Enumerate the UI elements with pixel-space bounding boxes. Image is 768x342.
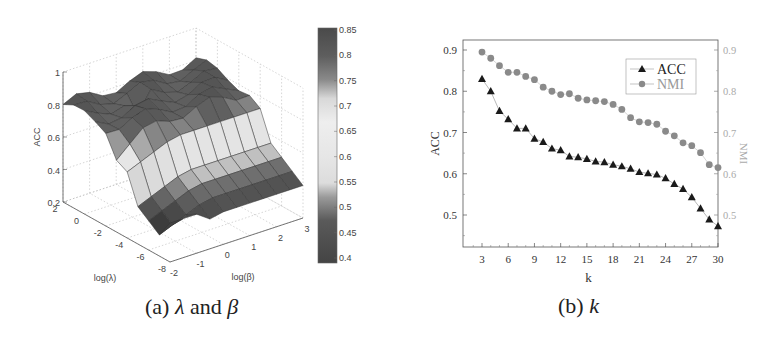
x-tick-label: 6: [505, 253, 511, 265]
caption-a-beta: β: [227, 294, 238, 319]
nmi-marker: [540, 84, 547, 91]
line-chart-canvas: 369121518212427300.90.90.80.80.70.70.60.…: [384, 0, 768, 300]
x-tick-label: 27: [686, 253, 698, 265]
lambda-tick-label: 0: [74, 216, 79, 226]
x-tick-label: 21: [634, 253, 645, 265]
nmi-marker: [514, 69, 521, 76]
surface-plot-canvas: 10.80.60.40.2ACC20-2-4-6-8log(λ)-2-10123…: [0, 0, 384, 300]
nmi-marker: [601, 98, 608, 105]
line-chart-axes: 369121518212427300.90.90.80.80.70.70.60.…: [428, 40, 750, 285]
y-tick-label-left: 0.7: [443, 127, 457, 139]
nmi-marker: [557, 91, 564, 98]
caption-b: (b) k: [558, 293, 599, 319]
colorbar-tick-label: 0.85: [339, 25, 357, 35]
z-axis-label: ACC: [32, 127, 42, 147]
lambda-tick-label: -6: [137, 252, 145, 262]
acc-marker: [548, 144, 556, 151]
colorbar-tick-label: 0.8: [339, 50, 352, 60]
beta-tick-label: 3: [304, 224, 309, 234]
nmi-marker: [688, 142, 695, 149]
acc-marker: [670, 180, 678, 187]
x-tick-label: 9: [532, 253, 538, 265]
beta-tick-label: 2: [278, 233, 283, 243]
caption-a-and: and: [184, 294, 227, 319]
acc-surface: [63, 58, 303, 235]
nmi-marker: [505, 69, 512, 76]
acc-marker: [688, 193, 696, 200]
nmi-marker: [496, 62, 503, 69]
nmi-marker: [706, 161, 713, 168]
nmi-marker: [610, 101, 617, 108]
nmi-marker: [697, 149, 704, 156]
y-tick-label-right: 0.9: [723, 45, 736, 56]
x-tick-label: 18: [608, 253, 620, 265]
legend-label-nmi: NMI: [657, 77, 685, 92]
y-tick-label-right: 0.5: [723, 210, 736, 221]
lambda-tick-label: -4: [115, 240, 123, 250]
y-tick-label-left: 0.6: [443, 168, 457, 180]
colorbar-tick-label: 0.75: [339, 76, 357, 86]
nmi-marker: [592, 97, 599, 104]
nmi-marker: [715, 164, 722, 171]
y-axis-label-left: ACC: [428, 131, 442, 156]
nmi-marker: [627, 114, 634, 121]
x-tick-label: 24: [660, 253, 672, 265]
y-tick-label-left: 0.9: [443, 44, 457, 56]
colorbar-tick-label: 0.5: [339, 202, 352, 212]
legend-label-acc: ACC: [657, 62, 686, 77]
nmi-marker: [479, 49, 486, 56]
acc-marker: [565, 152, 573, 159]
acc-marker: [679, 185, 687, 192]
x-tick-label: 15: [581, 253, 593, 265]
y-tick-label-right: 0.6: [723, 169, 736, 180]
beta-axis-label: log(β): [231, 272, 254, 282]
lambda-tick-label: -2: [94, 228, 102, 238]
acc-marker: [574, 153, 582, 160]
acc-marker: [662, 174, 670, 181]
nmi-marker: [487, 55, 494, 62]
nmi-marker: [662, 128, 669, 135]
panel-b-line-chart: 369121518212427300.90.90.80.80.70.70.60.…: [384, 0, 768, 342]
z-tick-label: 0.6: [47, 133, 60, 143]
x-tick-label: 12: [555, 253, 566, 265]
x-tick-label: 30: [713, 253, 725, 265]
nmi-marker: [566, 90, 573, 97]
nmi-marker: [583, 97, 590, 104]
z-tick-label: 0.4: [47, 166, 60, 176]
z-tick-label: 0.8: [47, 101, 60, 111]
lambda-tick-label: 2: [52, 204, 57, 214]
caption-b-prefix: (b): [558, 293, 589, 318]
caption-a: (a) λ and β: [145, 294, 238, 320]
colorbar-tick-label: 0.55: [339, 177, 357, 187]
colorbar-tick-label: 0.7: [339, 101, 352, 111]
nmi-marker: [618, 106, 625, 113]
acc-marker: [478, 75, 486, 82]
caption-b-k: k: [589, 293, 599, 318]
nmi-marker: [636, 118, 643, 125]
z-tick-label: 1: [55, 68, 60, 78]
colorbar-tick-label: 0.6: [339, 152, 352, 162]
y-axis-label-right: NMI: [738, 143, 750, 165]
legend-nmi-icon: [639, 81, 645, 87]
acc-marker: [487, 87, 495, 94]
acc-marker: [522, 124, 530, 131]
nmi-marker: [653, 121, 660, 128]
acc-marker: [635, 168, 643, 175]
nmi-marker: [645, 119, 652, 126]
nmi-marker: [671, 132, 678, 139]
x-axis-label: k: [585, 270, 592, 285]
lambda-axis-label: log(λ): [94, 273, 117, 283]
acc-marker: [714, 222, 722, 229]
nmi-marker: [531, 76, 538, 83]
acc-marker: [600, 158, 608, 165]
nmi-marker: [522, 73, 529, 80]
beta-tick-label: 1: [251, 242, 256, 252]
legend: ACCNMI: [626, 59, 696, 94]
y-tick-label-right: 0.7: [723, 128, 736, 139]
y-tick-label-left: 0.5: [443, 209, 457, 221]
y-tick-label-right: 0.8: [723, 86, 736, 97]
nmi-marker: [575, 95, 582, 102]
panel-a-surface-plot: 10.80.60.40.2ACC20-2-4-6-8log(λ)-2-10123…: [0, 0, 384, 342]
x-tick-label: 3: [479, 253, 485, 265]
beta-tick-label: -1: [197, 259, 205, 269]
